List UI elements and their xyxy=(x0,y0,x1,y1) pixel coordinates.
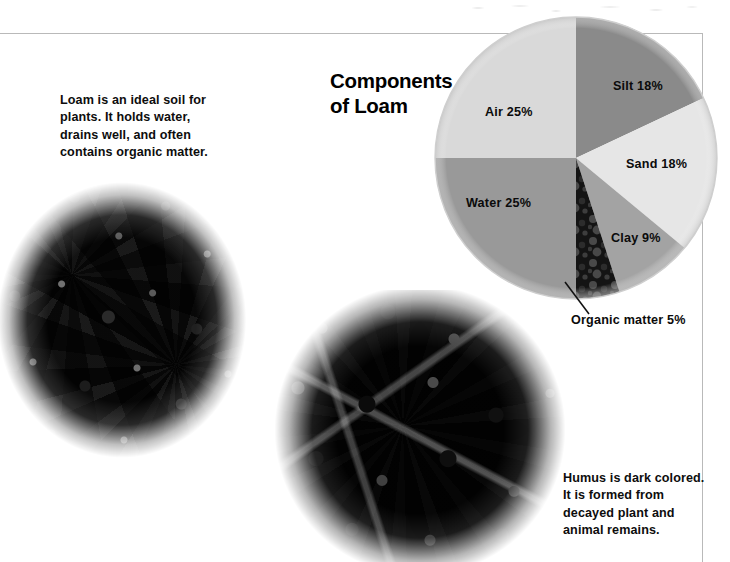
pie-label-silt: Silt 18% xyxy=(613,79,663,93)
pie-label-sand: Sand 18% xyxy=(626,157,687,171)
page-canvas: Loam is an ideal soil for plants. It hol… xyxy=(0,0,730,562)
humus-soil-photograph xyxy=(268,290,568,562)
humus-description-text: Humus is dark colored. It is formed from… xyxy=(563,470,730,540)
pie-label-water: Water 25% xyxy=(466,196,531,210)
loam-soil-photograph xyxy=(0,170,254,470)
loam-description-text: Loam is an ideal soil for plants. It hol… xyxy=(60,92,260,162)
pie-label-air: Air 25% xyxy=(485,105,533,119)
organic-matter-leader-line xyxy=(540,280,620,320)
pie-label-clay: Clay 9% xyxy=(611,231,661,245)
